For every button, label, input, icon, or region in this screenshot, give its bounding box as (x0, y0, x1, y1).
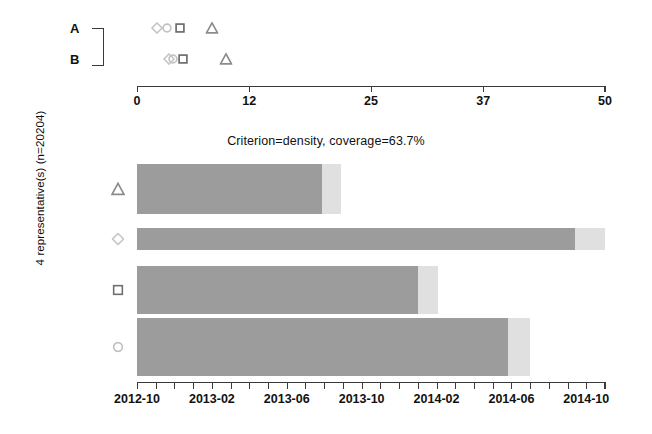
top-marker-a-circle (162, 23, 172, 33)
top-marker-a-triangle (205, 22, 218, 35)
top-marker-b-square (178, 54, 188, 64)
bottom-axis-tick (380, 382, 381, 389)
bottom-axis-tick (399, 382, 400, 389)
bottom-axis-line (137, 382, 605, 389)
bar-row-triangle (0, 164, 652, 214)
bar-covered-circle (137, 318, 508, 376)
bottom-axis-tick-label: 2012-10 (114, 392, 160, 406)
row-marker-circle (113, 342, 124, 353)
bottom-axis-tick-label: 2014-10 (563, 392, 609, 406)
bottom-axis-tick (493, 382, 494, 389)
top-axis-tick-label: 37 (476, 94, 490, 108)
top-axis-tick-label: 0 (134, 94, 141, 108)
group-label-b: B (70, 52, 80, 67)
bottom-axis-tick (511, 382, 512, 389)
bottom-axis-tick (437, 382, 438, 389)
top-marker-panel: A B 012253750 (0, 0, 652, 120)
chart-title: Criterion=density, coverage=63.7% (0, 134, 652, 148)
bottom-axis-tick (362, 382, 363, 389)
bottom-axis-tick-label: 2013-06 (264, 392, 310, 406)
bottom-axis-tick (549, 382, 550, 389)
bottom-axis-tick-label: 2014-02 (414, 392, 460, 406)
bar-row-circle (0, 318, 652, 376)
bar-covered-diamond (137, 228, 575, 250)
bottom-axis-tick (305, 382, 306, 389)
top-axis-tick-label: 25 (364, 94, 378, 108)
top-axis-tick (137, 86, 138, 92)
row-marker-square (113, 285, 124, 296)
group-bracket (92, 28, 104, 66)
bottom-axis-tick-label: 2013-02 (189, 392, 235, 406)
bottom-axis-tick (268, 382, 269, 389)
bottom-axis-tick (324, 382, 325, 389)
bottom-axis-tick-label: 2014-06 (488, 392, 534, 406)
bar-covered-square (137, 266, 418, 314)
bottom-axis-tick (474, 382, 475, 389)
bar-covered-triangle (137, 164, 322, 214)
bottom-axis-tick (343, 382, 344, 389)
bar-chart-panel: 2012-102013-022013-062013-102014-022014-… (0, 160, 652, 434)
top-axis-tick-label: 12 (242, 94, 256, 108)
bottom-axis-tick (530, 382, 531, 389)
row-marker-diamond (112, 233, 125, 246)
bottom-axis-tick (137, 382, 138, 389)
bottom-axis-tick-label: 2013-10 (339, 392, 385, 406)
bottom-axis-tick (249, 382, 250, 389)
bar-row-diamond (0, 228, 652, 250)
top-marker-a-diamond (151, 22, 163, 34)
row-marker-triangle (111, 182, 125, 196)
bottom-axis-tick (455, 382, 456, 389)
bottom-axis-tick (193, 382, 194, 389)
bottom-axis-tick (212, 382, 213, 389)
group-label-a: A (70, 21, 80, 36)
top-axis-tick (249, 86, 250, 92)
top-axis-tick-label: 50 (598, 94, 612, 108)
top-marker-a-square (175, 23, 185, 33)
bottom-axis-tick (418, 382, 419, 389)
top-axis-tick (483, 86, 484, 92)
bottom-axis-tick (586, 382, 587, 389)
bottom-axis-tick (605, 382, 606, 389)
bottom-axis-tick (231, 382, 232, 389)
top-marker-b-circle (168, 54, 178, 64)
bottom-axis-tick (156, 382, 157, 389)
bottom-axis-tick (174, 382, 175, 389)
top-marker-b-triangle (219, 53, 232, 66)
bottom-axis-tick (568, 382, 569, 389)
representative-coverage-figure: 4 representative(s) (n=20204) A B 012253… (0, 0, 652, 434)
top-axis-tick (605, 86, 606, 92)
bottom-axis-tick (287, 382, 288, 389)
top-axis-tick (371, 86, 372, 92)
bar-row-square (0, 266, 652, 314)
